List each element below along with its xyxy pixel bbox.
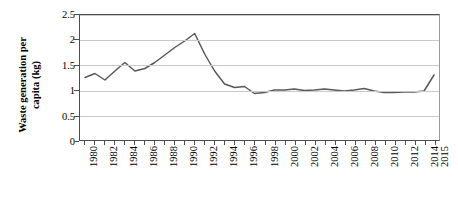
y-axis-tick-label: 0.5: [52, 110, 75, 121]
x-axis-tick-mark: [345, 141, 346, 145]
x-axis-tick-label: 1980: [88, 146, 99, 167]
x-axis-tick-mark: [435, 141, 436, 145]
x-axis-tick-mark: [385, 141, 386, 145]
y-axis-tick-label: 0: [52, 136, 75, 147]
y-axis-tick-mark: [74, 141, 79, 142]
x-axis-tick-label: 1984: [128, 146, 139, 167]
x-axis-tick-mark: [325, 141, 326, 145]
y-axis-tick-labels: 00.511.522.5: [52, 0, 75, 213]
x-axis-tick-mark: [164, 141, 165, 145]
x-axis-tick-mark: [84, 141, 85, 145]
x-axis-tick-mark: [395, 141, 396, 145]
x-axis-tick-mark: [174, 141, 175, 145]
x-axis-tick-mark: [285, 141, 286, 145]
x-axis-tick-mark: [265, 141, 266, 145]
x-axis-tick-label: 1994: [228, 146, 239, 167]
plot-area: [79, 14, 440, 141]
x-axis-tick-label: 1986: [148, 146, 159, 167]
y-axis-title: Waste generation per capita (kg): [0, 0, 58, 170]
x-axis-tick-mark: [405, 141, 406, 145]
x-axis-tick-label: 1996: [248, 146, 259, 167]
x-axis-tick-mark: [295, 141, 296, 145]
y-axis-tick-mark: [74, 116, 79, 117]
x-axis-tick-mark: [154, 141, 155, 145]
x-axis-tick-label: 2004: [329, 146, 340, 167]
x-axis-tick-mark: [214, 141, 215, 145]
x-axis-tick-labels: 1980198219841986198819901992199419961998…: [79, 146, 440, 213]
x-axis-tick-mark: [275, 141, 276, 145]
x-axis-tick-label: 1990: [188, 146, 199, 167]
y-axis-tick-label: 1.5: [52, 59, 75, 70]
y-axis-tick-mark: [74, 14, 79, 15]
x-axis-tick-mark: [254, 141, 255, 145]
x-axis-tick-label: 1988: [168, 146, 179, 167]
y-axis-title-line-1: Waste generation per: [16, 37, 29, 133]
x-axis-tick-mark: [305, 141, 306, 145]
x-axis-tick-mark: [224, 141, 225, 145]
x-axis-tick-label: 1982: [108, 146, 119, 167]
x-axis-tick-mark: [184, 141, 185, 145]
gridline: [80, 40, 439, 41]
y-axis-tick-label: 1: [52, 85, 75, 96]
x-axis-tick-mark: [375, 141, 376, 145]
x-axis-tick-label: 2006: [349, 146, 360, 167]
x-axis-tick-mark: [134, 141, 135, 145]
x-axis-tick-mark: [365, 141, 366, 145]
x-axis-tick-mark: [194, 141, 195, 145]
y-axis-tick-label: 2.5: [52, 9, 75, 20]
x-axis-tick-mark: [144, 141, 145, 145]
y-axis-title-line-2: capita (kg): [29, 61, 42, 109]
x-axis-tick-label: 1998: [269, 146, 280, 167]
x-axis-tick-label: 2002: [309, 146, 320, 167]
x-axis-tick-label: 2015: [439, 146, 450, 167]
data-line-series: [80, 15, 439, 140]
x-axis-tick-label: 2008: [369, 146, 380, 167]
x-axis-tick-mark: [415, 141, 416, 145]
gridline: [80, 116, 439, 117]
x-axis-tick-mark: [124, 141, 125, 145]
x-axis-tick-label: 2010: [389, 146, 400, 167]
x-axis-tick-mark: [335, 141, 336, 145]
x-axis-tick-label: 1992: [208, 146, 219, 167]
x-axis-tick-mark: [114, 141, 115, 145]
x-axis-tick-label: 2012: [409, 146, 420, 167]
chart-figure: Waste generation per capita (kg) 00.511.…: [0, 0, 458, 213]
x-axis-tick-mark: [104, 141, 105, 145]
gridline: [80, 65, 439, 66]
x-axis-tick-mark: [355, 141, 356, 145]
waste-per-capita-line: [85, 34, 434, 94]
y-axis-tick-mark: [74, 65, 79, 66]
y-axis-tick-label: 2: [52, 34, 75, 45]
x-axis-tick-mark: [234, 141, 235, 145]
x-axis-tick-mark: [204, 141, 205, 145]
x-axis-tick-mark: [315, 141, 316, 145]
y-axis-tick-mark: [74, 39, 79, 40]
x-axis-tick-mark: [94, 141, 95, 145]
x-axis-tick-mark: [425, 141, 426, 145]
gridline: [80, 15, 439, 16]
y-axis-tick-mark: [74, 90, 79, 91]
x-axis-tick-label: 2000: [289, 146, 300, 167]
x-axis-tick-mark: [244, 141, 245, 145]
gridline: [80, 91, 439, 92]
